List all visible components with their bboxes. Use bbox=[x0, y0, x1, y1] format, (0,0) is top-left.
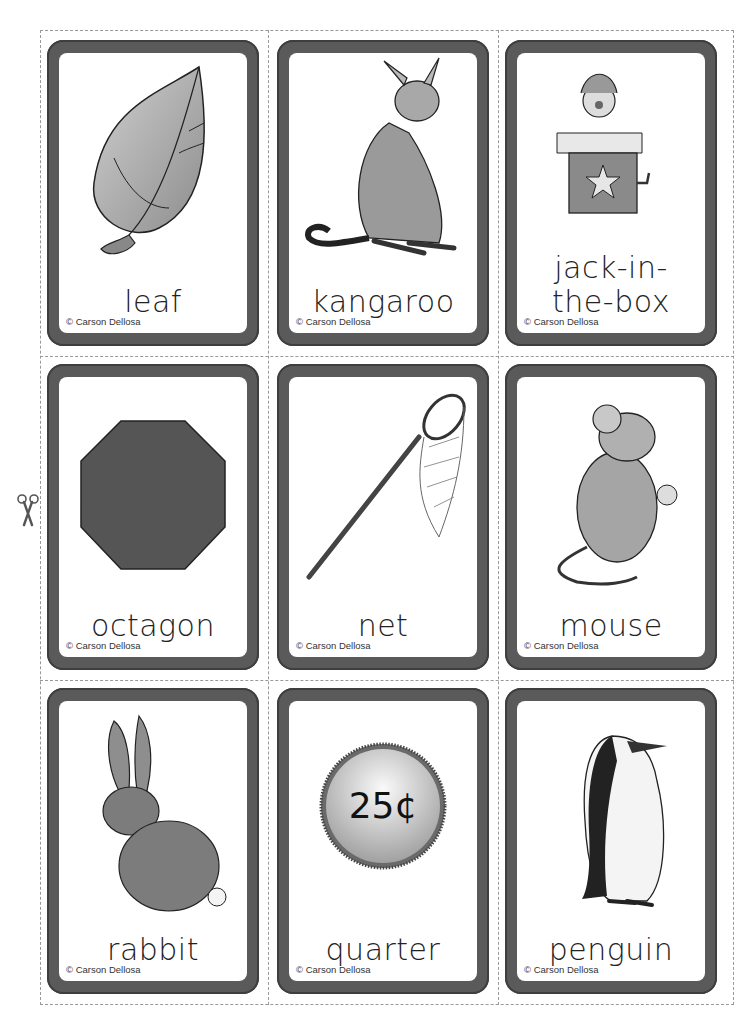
copyright-text: © Carson Dellosa bbox=[66, 640, 141, 651]
card-word: leaf bbox=[59, 285, 247, 319]
card-word: penguin bbox=[517, 933, 705, 967]
cut-line-horizontal-2 bbox=[40, 680, 734, 681]
card-word: quarter bbox=[289, 933, 477, 967]
scissors-icon bbox=[14, 493, 42, 533]
card-word-line1: jack-in- bbox=[517, 251, 705, 285]
mouse-icon bbox=[517, 377, 705, 597]
flashcard-jack-in-the-box: jack-in- the-box © Carson Dellosa bbox=[505, 40, 717, 346]
copyright-text: © Carson Dellosa bbox=[296, 640, 371, 651]
kangaroo-icon bbox=[289, 53, 477, 273]
penguin-icon bbox=[517, 701, 705, 921]
copyright-text: © Carson Dellosa bbox=[66, 964, 141, 975]
flashcard-leaf: leaf © Carson Dellosa bbox=[47, 40, 259, 346]
leaf-icon bbox=[59, 53, 247, 263]
card-word: kangaroo bbox=[289, 285, 477, 319]
cut-line-vertical-2 bbox=[498, 30, 499, 1005]
flashcard-octagon: octagon © Carson Dellosa bbox=[47, 364, 259, 670]
octagon-icon bbox=[59, 377, 247, 587]
flashcard-quarter: 25¢ quarter © Carson Dellosa bbox=[277, 688, 489, 994]
rabbit-icon bbox=[59, 701, 247, 921]
copyright-text: © Carson Dellosa bbox=[524, 640, 599, 651]
net-icon bbox=[289, 377, 477, 597]
flashcard-kangaroo: kangaroo © Carson Dellosa bbox=[277, 40, 489, 346]
copyright-text: © Carson Dellosa bbox=[524, 316, 599, 327]
flashcard-penguin: penguin © Carson Dellosa bbox=[505, 688, 717, 994]
quarter-coin-icon: 25¢ bbox=[289, 701, 477, 921]
copyright-text: © Carson Dellosa bbox=[296, 316, 371, 327]
card-word: rabbit bbox=[59, 933, 247, 967]
card-word-line2: the-box bbox=[517, 285, 705, 319]
card-word: mouse bbox=[517, 609, 705, 643]
copyright-text: © Carson Dellosa bbox=[66, 316, 141, 327]
jack-in-the-box-icon bbox=[517, 53, 705, 223]
copyright-text: © Carson Dellosa bbox=[296, 964, 371, 975]
cut-line-horizontal-1 bbox=[40, 356, 734, 357]
coin-label: 25¢ bbox=[289, 785, 477, 826]
card-word: net bbox=[289, 609, 477, 643]
card-word: octagon bbox=[59, 609, 247, 643]
flashcard-mouse: mouse © Carson Dellosa bbox=[505, 364, 717, 670]
flashcard-net: net © Carson Dellosa bbox=[277, 364, 489, 670]
copyright-text: © Carson Dellosa bbox=[524, 964, 599, 975]
flashcard-rabbit: rabbit © Carson Dellosa bbox=[47, 688, 259, 994]
cut-line-vertical-1 bbox=[268, 30, 269, 1005]
